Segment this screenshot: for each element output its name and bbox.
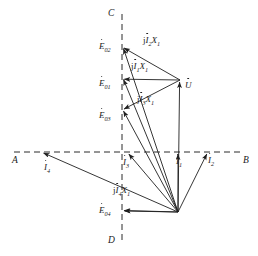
phasor-diagram-canvas bbox=[0, 0, 258, 256]
label-I1: I1 bbox=[176, 157, 182, 168]
label-jI2X1: jI2X1 bbox=[143, 36, 160, 47]
axis-group bbox=[14, 14, 244, 244]
axis-label-B: B bbox=[243, 156, 249, 166]
label-E03: E03 bbox=[99, 111, 111, 122]
label-I2: I2 bbox=[208, 156, 214, 167]
vector-I3 bbox=[129, 154, 178, 212]
label-jI3X1: jI3X1 bbox=[137, 95, 154, 106]
vector-jI1X1 bbox=[124, 79, 180, 80]
label-E02: E02 bbox=[99, 42, 111, 53]
axis-label-D: D bbox=[108, 236, 115, 246]
phasor-diagram-figure: C D A B E02 E01 E03 E04 U I1 I2 I3 I4 jI… bbox=[0, 0, 258, 256]
label-U: U bbox=[185, 81, 192, 90]
label-E01: E01 bbox=[99, 79, 111, 90]
label-jI1X1: jI1X1 bbox=[131, 62, 148, 73]
label-I3: I3 bbox=[123, 158, 129, 169]
vector-E03 bbox=[124, 111, 179, 212]
label-I4: I4 bbox=[44, 163, 50, 174]
vector-E02 bbox=[124, 49, 179, 213]
vector-I2 bbox=[178, 154, 207, 212]
axis-label-A: A bbox=[12, 156, 18, 166]
axis-label-C: C bbox=[108, 9, 114, 19]
emf-phasor-group bbox=[124, 49, 179, 213]
label-jI4X1: jI4X1 bbox=[113, 186, 130, 197]
vector-jI4X1 bbox=[125, 211, 179, 212]
label-E04: E04 bbox=[99, 206, 111, 217]
